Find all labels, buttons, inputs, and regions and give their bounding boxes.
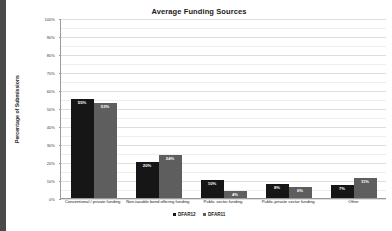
y-axis-tick: 40%: [47, 125, 55, 130]
bar-value-label: 8%: [266, 186, 289, 190]
bar[interactable]: 20%: [136, 162, 159, 198]
x-axis-category-label: Conventional / private funding: [60, 200, 125, 205]
bar-group: 20%24%: [126, 19, 191, 198]
y-axis-tick: 20%: [47, 161, 55, 166]
bar-value-label: 20%: [136, 164, 159, 168]
plot-wrapper: Percentage of Submissions 100%90%80%70%6…: [36, 19, 386, 199]
bar[interactable]: 24%: [159, 155, 182, 198]
y-axis-tick: 0%: [49, 197, 55, 202]
y-axis-tick: 100%: [45, 17, 55, 22]
chart-screenshot: Average Funding Sources Percentage of Su…: [0, 0, 392, 231]
legend-swatch-icon: [173, 213, 176, 216]
bar[interactable]: 4%: [224, 191, 247, 198]
chart-card: Average Funding Sources Percentage of Su…: [6, 0, 392, 231]
bar-pair: 10%4%: [201, 19, 247, 198]
bar-group: 8%6%: [256, 19, 321, 198]
plot-area: 55%53%20%24%10%4%8%6%7%11%: [60, 19, 386, 199]
bar[interactable]: 6%: [289, 187, 312, 198]
bar-group: 55%53%: [61, 19, 126, 198]
y-axis-tick: 70%: [47, 71, 55, 76]
legend-label: DFAR12: [178, 212, 196, 217]
bar[interactable]: 10%: [201, 180, 224, 198]
bar-value-label: 4%: [224, 193, 247, 197]
legend-item[interactable]: DFAR12: [173, 212, 196, 217]
bar-value-label: 11%: [354, 180, 377, 184]
y-axis-tick: 80%: [47, 53, 55, 58]
legend-label: DFAR11: [208, 212, 225, 217]
bar-group: 7%11%: [321, 19, 386, 198]
bar[interactable]: 53%: [94, 103, 117, 198]
y-axis-tick: 30%: [47, 143, 55, 148]
bar[interactable]: 55%: [71, 99, 94, 198]
legend-item[interactable]: DFAR11: [203, 212, 226, 217]
bar-value-label: 53%: [94, 105, 117, 109]
y-axis-tick-labels: 100%90%80%70%60%50%40%30%20%10%0%: [36, 19, 58, 199]
bar-groups: 55%53%20%24%10%4%8%6%7%11%: [61, 19, 386, 198]
chart-legend: DFAR12DFAR11: [6, 212, 392, 217]
bar-value-label: 6%: [289, 189, 312, 193]
bar-pair: 20%24%: [136, 19, 182, 198]
y-axis-tick: 60%: [47, 89, 55, 94]
y-axis-tick: 90%: [47, 35, 55, 40]
legend-swatch-icon: [203, 213, 206, 216]
bar-value-label: 55%: [71, 101, 94, 105]
y-axis-title: Percentage of Submissions: [14, 57, 20, 161]
x-axis-category-label: Public sector funding: [190, 200, 255, 205]
y-axis-tick: 50%: [47, 107, 55, 112]
x-axis-category-label: Public-private sector funding: [256, 200, 321, 205]
bar-group: 10%4%: [191, 19, 256, 198]
x-axis-category-labels: Conventional / private fundingNon-taxabl…: [60, 200, 386, 205]
bar-pair: 55%53%: [71, 19, 117, 198]
x-axis-category-label: Other: [321, 200, 386, 205]
bar-pair: 7%11%: [331, 19, 377, 198]
bar-value-label: 24%: [159, 157, 182, 161]
bar-pair: 8%6%: [266, 19, 312, 198]
x-axis-category-label: Non-taxable bond offering funding: [125, 200, 190, 205]
bar-value-label: 7%: [331, 187, 354, 191]
bar[interactable]: 8%: [266, 184, 289, 198]
chart-title: Average Funding Sources: [6, 7, 392, 16]
bar-value-label: 10%: [201, 182, 224, 186]
y-axis-tick: 10%: [47, 179, 55, 184]
bar[interactable]: 11%: [354, 178, 377, 198]
bar[interactable]: 7%: [331, 185, 354, 198]
